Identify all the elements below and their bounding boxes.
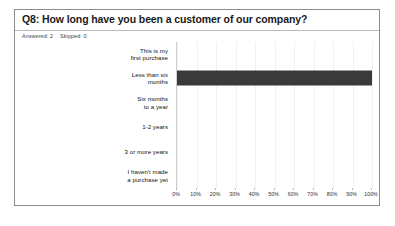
axis-tick-label: 30% [229, 191, 240, 197]
bar[interactable] [177, 71, 372, 86]
category-label-line: Less than six [18, 71, 168, 79]
axis-tick-label: 10% [190, 191, 201, 197]
axis-tick-label: 80% [327, 191, 338, 197]
axis-tick [196, 188, 197, 190]
bar-row[interactable] [177, 66, 372, 90]
bar-row[interactable] [177, 164, 372, 188]
axis-tick [332, 188, 333, 190]
page-title: Q8: How long have you been a customer of… [22, 13, 307, 25]
category-label-line: 1-2 years [18, 123, 168, 131]
axis-tick-label: 90% [346, 191, 357, 197]
axis-tick [371, 188, 372, 190]
axis-tick [254, 188, 255, 190]
skipped-value: 0 [83, 33, 86, 39]
category-label-line: months [18, 78, 168, 86]
category-label: Less than sixmonths [18, 71, 168, 86]
value-axis: 0%10%20%30%40%50%60%70%80%90%100% [176, 188, 373, 204]
bar-row[interactable] [177, 115, 372, 139]
category-label: This is myfirst purchase [18, 47, 168, 62]
bar-chart: This is myfirst purchaseLess than sixmon… [15, 42, 381, 206]
axis-tick-label: 0% [172, 191, 180, 197]
category-label-line: to a year [18, 103, 168, 111]
answered-value: 2 [50, 33, 53, 39]
axis-tick-label: 20% [210, 191, 221, 197]
category-label-line: I haven't made [18, 168, 168, 176]
response-summary: Answered: 2Skipped: 0 [22, 33, 94, 39]
axis-tick-label: 100% [364, 191, 378, 197]
category-label: 3 or more years [18, 148, 168, 156]
axis-tick-label: 60% [288, 191, 299, 197]
plot-area [176, 42, 373, 188]
category-label: 1-2 years [18, 123, 168, 131]
answered-stat: Answered: 2 [22, 33, 53, 39]
axis-tick [215, 188, 216, 190]
question-header: Q8: How long have you been a customer of… [15, 10, 379, 31]
category-label: Six monthsto a year [18, 95, 168, 110]
axis-tick [313, 188, 314, 190]
axis-tick [274, 188, 275, 190]
category-label: I haven't madea purchase yet [18, 168, 168, 183]
axis-tick [352, 188, 353, 190]
category-label-line: This is my [18, 47, 168, 55]
axis-tick [293, 188, 294, 190]
axis-tick-label: 40% [249, 191, 260, 197]
bar-row[interactable] [177, 91, 372, 115]
category-axis: This is myfirst purchaseLess than sixmon… [15, 42, 176, 188]
bar-row[interactable] [177, 139, 372, 163]
gridline [372, 42, 373, 188]
category-label-line: 3 or more years [18, 148, 168, 156]
axis-tick [176, 188, 177, 190]
axis-tick [235, 188, 236, 190]
skipped-stat: Skipped: 0 [60, 33, 87, 39]
skipped-label: Skipped: [60, 33, 82, 39]
category-label-line: a purchase yet [18, 176, 168, 184]
category-label-line: Six months [18, 95, 168, 103]
category-label-line: first purchase [18, 54, 168, 62]
bar-row[interactable] [177, 42, 372, 66]
answered-label: Answered: [22, 33, 48, 39]
survey-question-card: Q8: How long have you been a customer of… [14, 9, 380, 206]
axis-tick-label: 70% [307, 191, 318, 197]
axis-tick-label: 50% [268, 191, 279, 197]
